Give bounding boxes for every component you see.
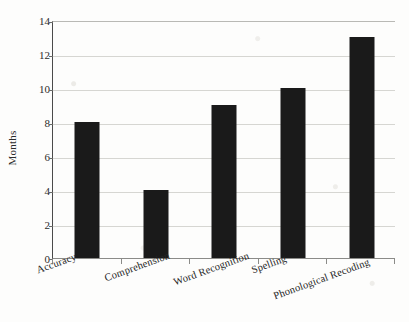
bar-slot [327,22,396,258]
y-tick-mark [49,22,53,23]
bar[interactable] [75,122,100,258]
y-tick-mark [49,90,53,91]
y-tick-mark [49,192,53,193]
y-axis-title: Months [6,108,18,188]
x-axis-category-labels: AccuracyComprehensionWord RecognitionSpe… [0,259,409,322]
y-tick-label: 10 [28,83,50,95]
bar-slot [122,22,191,258]
bar-slot [53,22,122,258]
plot-area [52,21,395,259]
bar-slot [190,22,259,258]
bar[interactable] [349,37,374,258]
y-tick-label: 8 [28,117,50,129]
y-tick-mark [49,56,53,57]
y-tick-mark [49,124,53,125]
y-tick-label: 14 [28,15,50,27]
bar-slot [259,22,328,258]
bar[interactable] [281,88,306,258]
y-tick-label: 6 [28,151,50,163]
y-tick-label: 2 [28,219,50,231]
y-tick-label: 12 [28,49,50,61]
y-tick-label: 4 [28,185,50,197]
bar[interactable] [212,105,237,258]
y-tick-mark [49,226,53,227]
y-axis-tick-labels: 02468101214 [28,14,50,260]
bar-series [53,22,395,258]
bar[interactable] [143,190,168,258]
y-tick-mark [49,158,53,159]
